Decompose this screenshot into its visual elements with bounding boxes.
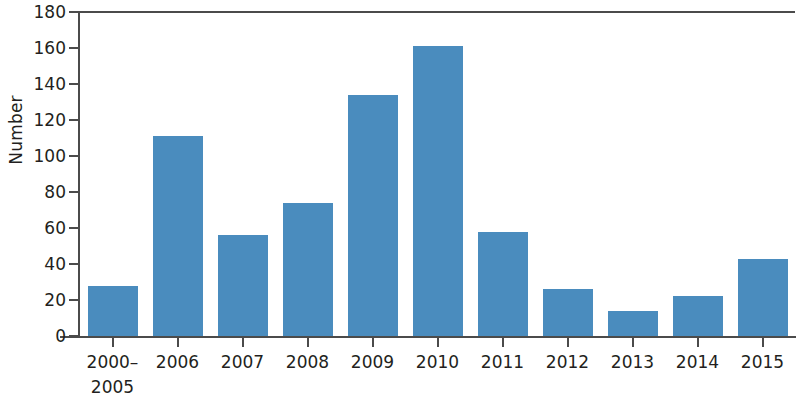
y-axis-tick-label: 40 [22,254,66,274]
x-axis-tick [502,337,504,347]
bar-chart: Number 020406080100120140160180 2000– 20… [0,0,805,396]
x-axis-line [60,336,796,338]
bar-slot [80,12,145,336]
bar[interactable] [88,286,138,336]
y-axis-tick [69,335,79,337]
y-axis-tick [69,263,79,265]
bar-slot [600,12,665,336]
bar-slot [535,12,600,336]
y-axis-tick-label: 120 [22,110,66,130]
bar[interactable] [413,46,463,336]
bar[interactable] [738,259,788,336]
bar[interactable] [348,95,398,336]
bar[interactable] [218,235,268,336]
x-axis-tick [242,337,244,347]
y-axis-tick-label: 20 [22,290,66,310]
x-axis-tick [762,337,764,347]
x-axis-tick [697,337,699,347]
bar[interactable] [673,296,723,336]
bar-slot [275,12,340,336]
y-axis-tick-label: 180 [22,2,66,22]
x-axis-tick [307,337,309,347]
bar[interactable] [478,232,528,336]
y-axis-tick [69,83,79,85]
y-axis-tick [69,227,79,229]
bar[interactable] [283,203,333,336]
bar-slot [405,12,470,336]
x-axis-tick [437,337,439,347]
y-axis-tick-label: 140 [22,74,66,94]
bar-series [80,12,795,336]
bar-slot [145,12,210,336]
y-axis-tick [69,11,79,13]
bar-slot [340,12,405,336]
y-axis-tick [69,191,79,193]
bar-slot [470,12,535,336]
x-axis-tick [177,337,179,347]
x-axis-tick [112,337,114,347]
y-axis-tick-label: 0 [22,326,66,346]
y-axis-tick [69,155,79,157]
y-axis-tick-label: 60 [22,218,66,238]
x-axis-tick [567,337,569,347]
y-axis-tick-label: 160 [22,38,66,58]
x-axis-tick [632,337,634,347]
bar[interactable] [153,136,203,336]
bar[interactable] [608,311,658,336]
x-axis-tick [372,337,374,347]
bar-slot [730,12,795,336]
bar-slot [210,12,275,336]
y-axis-tick [69,119,79,121]
y-axis-tick [69,47,79,49]
y-axis-tick-label: 100 [22,146,66,166]
bar-slot [665,12,730,336]
bar[interactable] [543,289,593,336]
y-axis-tick-label: 80 [22,182,66,202]
x-axis-tick-label: 2015 [717,350,805,375]
y-axis-tick [69,299,79,301]
